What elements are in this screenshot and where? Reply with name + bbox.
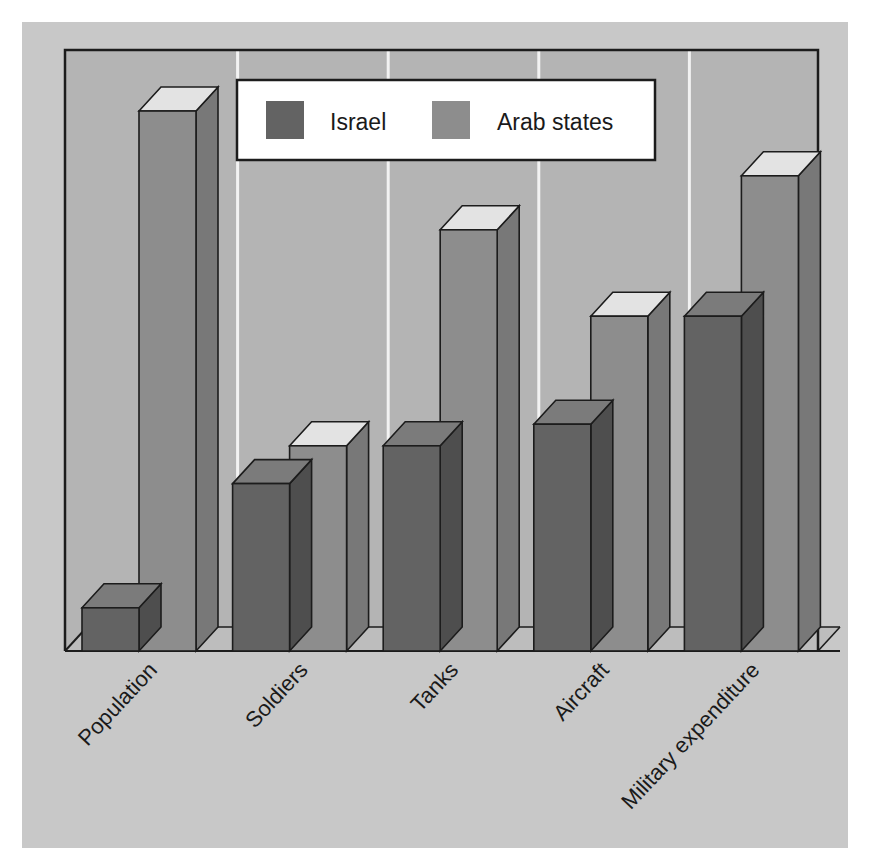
bar-arab-0-front-face bbox=[139, 111, 196, 651]
bar-israel-1-side-face bbox=[290, 460, 312, 651]
bar-arab-1-side-face bbox=[347, 422, 369, 651]
bar-israel-4-side-face bbox=[741, 292, 763, 651]
bar-israel-0-front-face bbox=[82, 608, 139, 651]
bar-israel-2-front-face bbox=[383, 446, 440, 651]
bar-arab-3-side-face bbox=[648, 292, 670, 651]
bar-arab-4-side-face bbox=[798, 152, 820, 651]
legend-swatch-0 bbox=[266, 101, 304, 139]
grouped-3d-bar-chart: PopulationSoldiersTanksAircraftMilitary … bbox=[0, 0, 870, 868]
legend-label-0: Israel bbox=[330, 109, 386, 135]
chart-page: PopulationSoldiersTanksAircraftMilitary … bbox=[0, 0, 870, 868]
bar-israel-3-side-face bbox=[591, 400, 613, 651]
bar-israel-2-side-face bbox=[440, 422, 462, 651]
legend-swatch-1 bbox=[432, 101, 470, 139]
bar-israel-3-front-face bbox=[534, 424, 591, 651]
bar-arab-0-side-face bbox=[196, 87, 218, 651]
bar-israel-4-front-face bbox=[684, 316, 741, 651]
chart-legend: IsraelArab states bbox=[237, 80, 655, 160]
bar-israel-1-front-face bbox=[233, 484, 290, 651]
bar-arab-2-side-face bbox=[497, 206, 519, 651]
legend-label-1: Arab states bbox=[497, 109, 613, 135]
